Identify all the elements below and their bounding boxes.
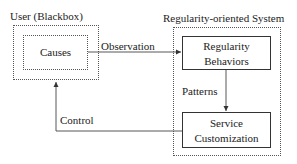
patterns-label: Patterns — [182, 85, 217, 97]
edges-layer — [0, 0, 297, 164]
observation-label: Observation — [101, 40, 155, 52]
control-label: Control — [60, 114, 94, 126]
